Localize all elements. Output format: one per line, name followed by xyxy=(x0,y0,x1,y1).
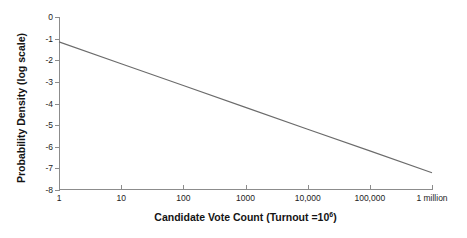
x-axis-tick xyxy=(59,185,60,190)
y-axis-tick-label: -4 xyxy=(34,100,53,109)
y-axis-tick-label: 0 xyxy=(34,13,53,22)
y-axis-tick xyxy=(55,125,60,126)
x-axis-tick-label: 1 xyxy=(57,194,62,203)
x-axis-tick-label: 10 xyxy=(116,194,125,203)
y-axis-tick-label: -2 xyxy=(34,56,53,65)
y-axis-tick-label: -8 xyxy=(34,186,53,195)
x-axis-tick xyxy=(308,185,309,190)
x-axis-tick-label: 10,000 xyxy=(295,194,321,203)
y-axis-title: Probability Density (log scale) xyxy=(14,8,28,208)
y-axis-tick xyxy=(55,82,60,83)
chart-figure: Probability Density (log scale) 0-1-2-3-… xyxy=(0,0,467,238)
x-axis-tick-label: 1 million xyxy=(416,194,447,203)
y-axis-tick xyxy=(55,168,60,169)
y-axis-tick xyxy=(55,190,60,191)
x-axis-title-main: Candidate Vote Count (Turnout =10 xyxy=(154,211,329,223)
x-axis-tick xyxy=(183,185,184,190)
y-axis-tick-label: -7 xyxy=(34,164,53,173)
data-series-line xyxy=(59,17,432,190)
x-axis-tick xyxy=(432,185,433,190)
y-axis-tick-label: -5 xyxy=(34,121,53,130)
y-axis-tick xyxy=(55,60,60,61)
x-axis-tick xyxy=(370,185,371,190)
x-axis-tick-label: 100 xyxy=(176,194,190,203)
plot-area xyxy=(59,17,432,190)
x-axis-title: Candidate Vote Count (Turnout =106) xyxy=(59,211,432,223)
y-axis-tick xyxy=(55,39,60,40)
y-axis-tick-labels: 0-1-2-3-4-5-6-7-8 xyxy=(34,0,53,238)
x-axis-title-suffix: ) xyxy=(333,211,337,223)
x-axis-tick-label: 100,000 xyxy=(354,194,385,203)
y-axis-tick xyxy=(55,17,60,18)
y-axis-tick-label: -3 xyxy=(34,78,53,87)
y-axis-tick-label: -6 xyxy=(34,143,53,152)
x-axis-tick xyxy=(246,185,247,190)
y-axis-tick xyxy=(55,147,60,148)
y-axis-tick xyxy=(55,104,60,105)
x-axis-tick-labels: 110100100010,000100,0001 million xyxy=(59,194,432,206)
x-axis-tick-label: 1000 xyxy=(236,194,255,203)
y-axis-tick-label: -1 xyxy=(34,35,53,44)
x-axis-tick xyxy=(121,185,122,190)
